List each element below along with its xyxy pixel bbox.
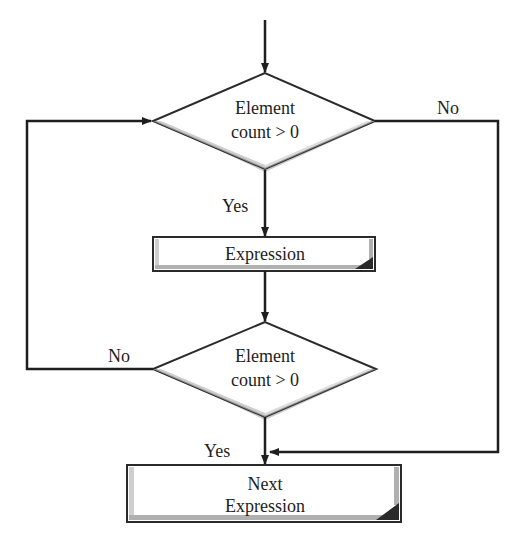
decision-1-yes-label: Yes xyxy=(222,196,248,216)
process-expression-label: Expression xyxy=(225,244,305,264)
decision-1-line2: count > 0 xyxy=(231,122,299,142)
decision-2-no-label: No xyxy=(108,346,130,366)
flowchart: Element count > 0 Yes No Expression Elem… xyxy=(0,0,521,551)
decision-2-line1: Element xyxy=(235,346,295,366)
process-next-expression-line1: Next xyxy=(248,474,283,494)
decision-2: Element count > 0 xyxy=(153,322,378,420)
decision-1-no-connector xyxy=(270,121,498,452)
decision-1: Element count > 0 xyxy=(153,73,377,172)
process-next-expression: Next Expression xyxy=(127,465,401,522)
decision-1-line1: Element xyxy=(235,98,295,118)
process-next-expression-line2: Expression xyxy=(225,496,305,516)
process-expression: Expression xyxy=(153,237,375,271)
decision-1-no-label: No xyxy=(437,98,459,118)
decision-2-no-loop xyxy=(27,121,153,369)
decision-2-yes-label: Yes xyxy=(204,441,230,461)
decision-2-line2: count > 0 xyxy=(231,370,299,390)
